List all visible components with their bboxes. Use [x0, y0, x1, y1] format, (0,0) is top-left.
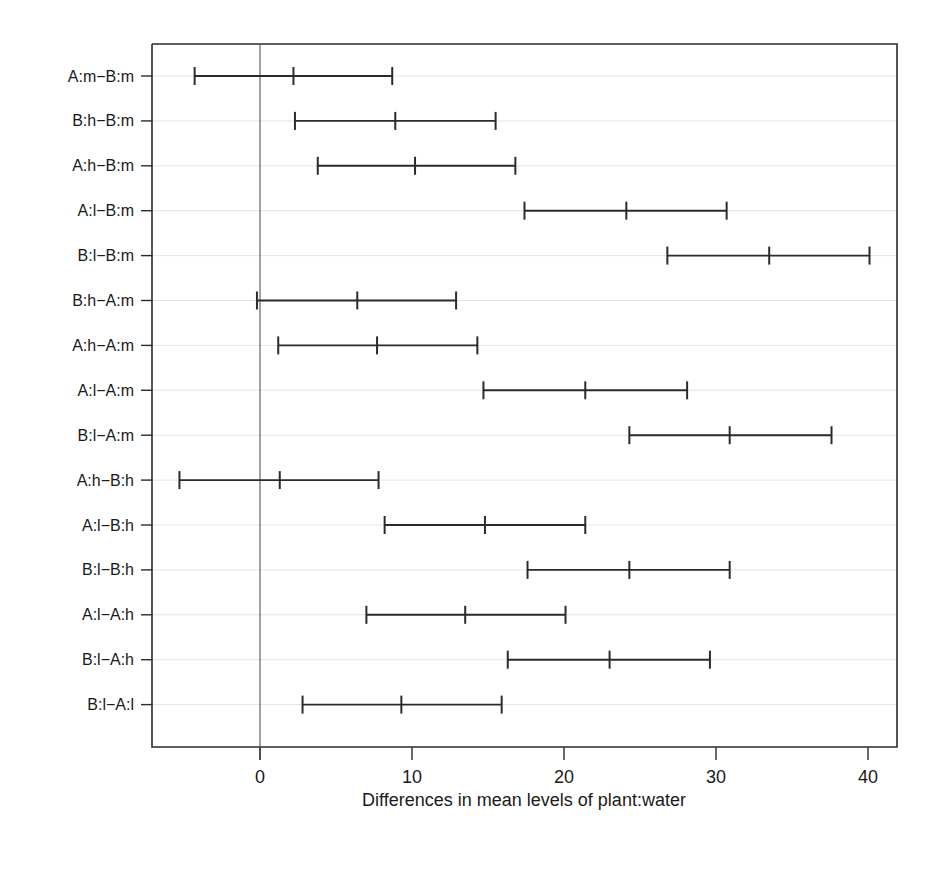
y-tick-label: B:l−B:m	[78, 247, 134, 264]
y-tick-label: A:l−A:m	[78, 382, 134, 399]
y-tick-label: A:l−B:m	[78, 202, 134, 219]
y-tick-label: B:l−B:h	[82, 561, 134, 578]
x-tick-label: 10	[402, 767, 422, 787]
x-axis-label: Differences in mean levels of plant:wate…	[362, 790, 686, 810]
x-tick-label: 40	[858, 767, 878, 787]
y-tick-label: B:h−B:m	[72, 112, 134, 129]
y-tick-label: A:h−A:m	[72, 337, 134, 354]
y-tick-label: A:h−B:h	[77, 472, 134, 489]
y-tick-label: B:l−A:h	[82, 651, 134, 668]
x-tick-label: 0	[255, 767, 265, 787]
y-tick-label: A:h−B:m	[72, 157, 134, 174]
y-tick-label: B:l−A:m	[78, 427, 134, 444]
x-tick-label: 30	[706, 767, 726, 787]
y-tick-label: B:h−A:m	[72, 292, 134, 309]
plot-background	[0, 0, 943, 876]
x-tick-label: 20	[554, 767, 574, 787]
tukey-confidence-interval-plot: A:m−B:mB:h−B:mA:h−B:mA:l−B:mB:l−B:mB:h−A…	[0, 0, 943, 876]
y-tick-label: A:l−B:h	[82, 517, 134, 534]
y-tick-label: A:l−A:h	[82, 606, 134, 623]
y-tick-label: B:l−A:l	[87, 696, 134, 713]
y-tick-label: A:m−B:m	[68, 68, 134, 85]
plot-canvas: A:m−B:mB:h−B:mA:h−B:mA:l−B:mB:l−B:mB:h−A…	[0, 0, 943, 876]
